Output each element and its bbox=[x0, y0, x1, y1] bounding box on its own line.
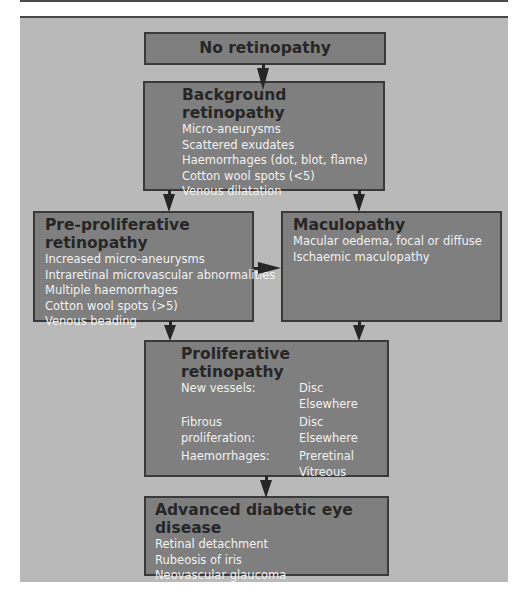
feature-label: Haemorrhages: bbox=[181, 449, 299, 480]
node-item: Neovascular glaucoma bbox=[155, 568, 387, 584]
feature-value: Elsewhere bbox=[299, 431, 358, 447]
node-background-retinopathy: Background retinopathy Micro-aneurysms S… bbox=[143, 81, 385, 191]
node-item: Cotton wool spots (<5) bbox=[182, 169, 383, 185]
node-item: Rubeosis of iris bbox=[155, 553, 387, 569]
feature-row: New vessels: Disc Elsewhere bbox=[181, 381, 387, 412]
top-rule bbox=[20, 0, 508, 2]
node-item: Haemorrhages (dot, blot, flame) bbox=[182, 153, 383, 169]
node-title: Proliferative retinopathy bbox=[181, 345, 387, 381]
node-title: Pre-proliferative retinopathy bbox=[45, 216, 252, 252]
node-item: Venous beading bbox=[45, 314, 252, 330]
node-no-retinopathy: No retinopathy bbox=[144, 32, 386, 65]
feature-value: Elsewhere bbox=[299, 397, 358, 413]
node-item: Cotton wool spots (>5) bbox=[45, 299, 252, 315]
node-maculopathy: Maculopathy Macular oedema, focal or dif… bbox=[281, 211, 502, 322]
node-item: Macular oedema, focal or diffuse bbox=[293, 234, 500, 250]
node-item: Increased micro-aneurysms bbox=[45, 252, 252, 268]
feature-value: Preretinal bbox=[299, 449, 354, 465]
node-item: Retinal detachment bbox=[155, 537, 387, 553]
node-proliferative-retinopathy: Proliferative retinopathy New vessels: D… bbox=[144, 340, 389, 477]
node-item: Multiple haemorrhages bbox=[45, 283, 252, 299]
node-title: Background retinopathy bbox=[182, 86, 383, 122]
node-item: Intraretinal microvascular abnormalities bbox=[45, 268, 252, 284]
feature-value: Vitreous bbox=[299, 465, 354, 481]
feature-value: Disc bbox=[299, 381, 358, 397]
feature-row: Fibrous proliferation: Disc Elsewhere bbox=[181, 415, 387, 446]
node-advanced-diabetic-eye-disease: Advanced diabetic eye disease Retinal de… bbox=[144, 496, 389, 576]
feature-label: New vessels: bbox=[181, 381, 299, 412]
node-item: Scattered exudates bbox=[182, 138, 383, 154]
feature-row: Haemorrhages: Preretinal Vitreous bbox=[181, 449, 387, 480]
node-title: Maculopathy bbox=[293, 216, 500, 234]
node-title: No retinopathy bbox=[146, 34, 384, 63]
feature-label: Fibrous proliferation: bbox=[181, 415, 299, 446]
node-title: Advanced diabetic eye disease bbox=[155, 501, 387, 537]
node-item: Ischaemic maculopathy bbox=[293, 250, 500, 266]
feature-value: Disc bbox=[299, 415, 358, 431]
node-item: Micro-aneurysms bbox=[182, 122, 383, 138]
node-pre-proliferative-retinopathy: Pre-proliferative retinopathy Increased … bbox=[33, 211, 254, 322]
